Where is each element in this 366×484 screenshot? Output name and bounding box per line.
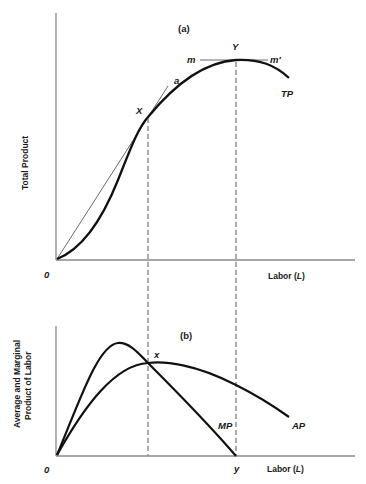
panel-a-y-label: Total Product [20,136,30,190]
panel-a-origin: 0 [44,269,50,280]
tangent-m-prime-label: m′ [270,54,281,65]
panel-b-x-label: Labor (L) [267,464,304,474]
ap-curve [57,362,289,455]
panel-a-x-label: Labor (L) [268,271,305,281]
tangent-m-label: m [187,54,196,65]
panel-b-origin: 0 [44,464,50,475]
point-x-label: X [135,105,143,116]
mp-curve [57,343,236,456]
tp-curve [57,60,289,259]
mp-zero-y-label: y [233,463,240,474]
ray-a-label: a [174,75,179,86]
panel-b-tag: (b) [180,330,192,341]
panel-a: (a) X Y a m m′ TP 0 Labor (L) Total Prod… [20,13,355,456]
panel-b-y-label: Average and Marginal Product of Labor [12,338,33,428]
ap-label: AP [291,420,306,431]
mp-label: MP [218,420,233,431]
panel-b: (b) x MP AP y 0 Labor (L) Average and Ma… [12,326,355,475]
panel-a-tag: (a) [178,23,190,34]
intersection-x-label: x [153,349,160,360]
tp-label: TP [281,88,294,99]
production-diagram: (a) X Y a m m′ TP 0 Labor (L) Total Prod… [0,0,366,484]
point-y-label: Y [232,41,240,52]
